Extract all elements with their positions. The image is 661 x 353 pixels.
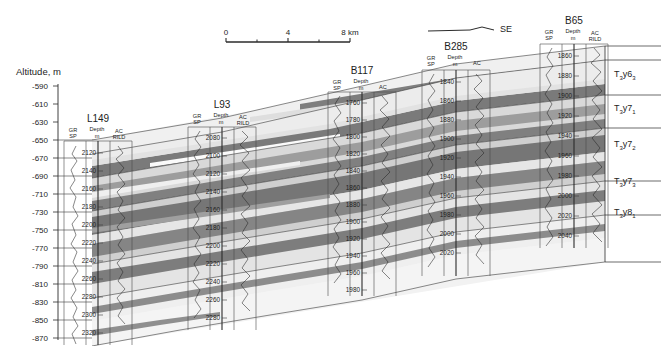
curve-label-depth-unit: m bbox=[571, 35, 576, 41]
depth-label: 1900 bbox=[346, 218, 361, 225]
depth-label: 1780 bbox=[346, 116, 361, 123]
depth-label: 2040 bbox=[558, 232, 573, 239]
curve-label-sp: SP bbox=[193, 119, 201, 125]
curve-label-depth: Depth bbox=[354, 78, 369, 84]
strat-mid: y7 bbox=[623, 139, 633, 149]
depth-label: 2000 bbox=[440, 230, 455, 237]
depth-label: 1960 bbox=[558, 152, 573, 159]
altitude-tick-label: -850 bbox=[32, 316, 49, 325]
curve-label-rild: RILD bbox=[237, 120, 250, 126]
curve-label-depth: Depth bbox=[448, 54, 463, 60]
well-name-label: B65 bbox=[565, 15, 583, 26]
depth-label: 1880 bbox=[558, 72, 573, 79]
depth-label: 1900 bbox=[440, 135, 455, 142]
depth-label: 2020 bbox=[558, 212, 573, 219]
scale-label-8km: 8 km bbox=[341, 28, 359, 37]
depth-label: 2220 bbox=[82, 239, 97, 246]
curve-label-depth: Depth bbox=[566, 28, 581, 34]
depth-label: 1960 bbox=[440, 192, 455, 199]
depth-label: 2260 bbox=[206, 296, 221, 303]
well-name-label: L93 bbox=[214, 99, 231, 110]
curve-label-depth-unit: m bbox=[219, 119, 224, 125]
depth-label: 1980 bbox=[558, 172, 573, 179]
depth-label: 2300 bbox=[82, 311, 97, 318]
curve-label-depth: Depth bbox=[214, 112, 229, 118]
scale-label-4: 4 bbox=[286, 28, 291, 37]
altitude-tick-label: -690 bbox=[32, 172, 49, 181]
altitude-tick-label: -670 bbox=[32, 154, 49, 163]
depth-label: 1980 bbox=[346, 286, 361, 293]
strat-mid: y8 bbox=[623, 207, 633, 217]
altitude-tick-label: -810 bbox=[32, 280, 49, 289]
depth-label: 1980 bbox=[440, 211, 455, 218]
depth-label: 2020 bbox=[440, 249, 455, 256]
direction-label-se: SE bbox=[500, 24, 512, 34]
altitude-tick-label: -610 bbox=[32, 100, 49, 109]
depth-label: 1940 bbox=[558, 132, 573, 139]
curve-label-ac: AC bbox=[379, 84, 387, 90]
altitude-tick-label: -630 bbox=[32, 118, 49, 127]
depth-label: 2240 bbox=[206, 278, 221, 285]
altitude-tick-label: -870 bbox=[32, 334, 49, 343]
curve-label-sp: SP bbox=[333, 85, 341, 91]
depth-label: 2240 bbox=[82, 257, 97, 264]
curve-label-ac: AC bbox=[473, 60, 481, 66]
depth-label: 1840 bbox=[346, 167, 361, 174]
depth-label: 1940 bbox=[440, 173, 455, 180]
strat-mid: y7 bbox=[623, 103, 633, 113]
curve-label-rild: RILD bbox=[589, 36, 602, 42]
depth-label: 2140 bbox=[82, 167, 97, 174]
curve-label-rild: RILD bbox=[113, 134, 126, 140]
depth-label: 1840 bbox=[440, 78, 455, 85]
depth-label: 2160 bbox=[206, 206, 221, 213]
depth-label: 1880 bbox=[346, 201, 361, 208]
altitude-axis-title: Altitude, m bbox=[16, 66, 61, 77]
depth-label: 2000 bbox=[558, 192, 573, 199]
depth-label: 1920 bbox=[346, 235, 361, 242]
depth-label: 1860 bbox=[346, 184, 361, 191]
altitude-tick-label: -750 bbox=[32, 226, 49, 235]
depth-label: 1940 bbox=[346, 252, 361, 259]
altitude-tick-label: -710 bbox=[32, 190, 49, 199]
depth-label: 2120 bbox=[206, 170, 221, 177]
curve-label-depth-unit: m bbox=[359, 85, 364, 91]
curve-label-depth-unit: m bbox=[453, 61, 458, 67]
altitude-tick-label: -650 bbox=[32, 136, 49, 145]
altitude-tick-label: -830 bbox=[32, 298, 49, 307]
depth-label: 1860 bbox=[440, 97, 455, 104]
depth-label: 1800 bbox=[346, 133, 361, 140]
altitude-tick-label: -770 bbox=[32, 244, 49, 253]
strat-mid: y6 bbox=[623, 69, 633, 79]
depth-label: 2320 bbox=[82, 329, 97, 336]
altitude-tick-label: -790 bbox=[32, 262, 49, 271]
depth-label: 1820 bbox=[346, 150, 361, 157]
depth-label: 2280 bbox=[206, 314, 221, 321]
depth-label: 2100 bbox=[206, 152, 221, 159]
well-name-label: L149 bbox=[87, 113, 110, 124]
depth-label: 2220 bbox=[206, 260, 221, 267]
curve-label-depth: Depth bbox=[90, 126, 105, 132]
depth-label: 2260 bbox=[82, 275, 97, 282]
curve-label-sp: SP bbox=[69, 133, 77, 139]
cross-section-canvas: Altitude, m -590 -610 -630 -650 -670 -69… bbox=[0, 0, 661, 353]
curve-label-sp: SP bbox=[427, 61, 435, 67]
depth-label: 2120 bbox=[82, 149, 97, 156]
depth-label: 1900 bbox=[558, 92, 573, 99]
depth-label: 1880 bbox=[440, 116, 455, 123]
depth-label: 2180 bbox=[206, 224, 221, 231]
scale-label-0: 0 bbox=[224, 28, 229, 37]
well-name-label: B285 bbox=[444, 41, 468, 52]
depth-label: 2180 bbox=[82, 203, 97, 210]
curve-label-sp: SP bbox=[545, 35, 553, 41]
depth-label: 2140 bbox=[206, 188, 221, 195]
altitude-tick-label: -730 bbox=[32, 208, 49, 217]
cross-section-figure: Altitude, m -590 -610 -630 -650 -670 -69… bbox=[0, 0, 661, 353]
depth-label: 2200 bbox=[82, 221, 97, 228]
depth-label: 1960 bbox=[346, 269, 361, 276]
depth-label: 2160 bbox=[82, 185, 97, 192]
depth-label: 2280 bbox=[82, 293, 97, 300]
depth-label: 1920 bbox=[440, 154, 455, 161]
depth-label: 1760 bbox=[346, 99, 361, 106]
curve-label-depth-unit: m bbox=[95, 133, 100, 139]
well-name-label: B117 bbox=[351, 65, 374, 76]
